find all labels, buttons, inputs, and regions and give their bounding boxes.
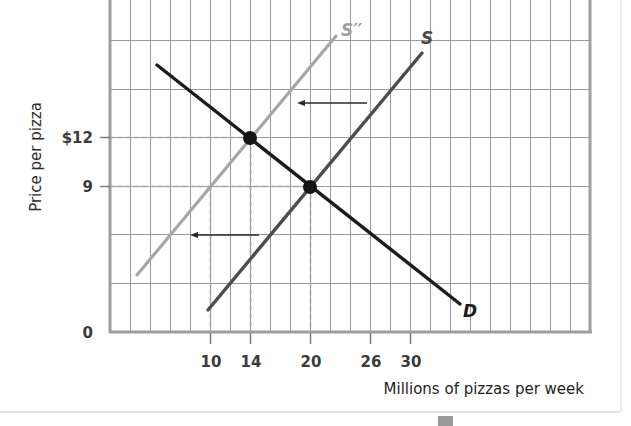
equilibrium-point-original <box>303 180 317 194</box>
curve-label-d: D <box>463 301 477 321</box>
y-tick-label-0: 0 <box>83 324 93 342</box>
shift-arrow-upper <box>297 100 367 106</box>
x-tick-label-30: 30 <box>401 353 422 371</box>
x-ticks <box>211 333 411 344</box>
x-tick-label-26: 26 <box>361 353 382 371</box>
y-axis-title: Price per pizza <box>27 102 45 212</box>
equilibrium-point-new <box>243 131 257 145</box>
curve-label-s-double-prime: S′′ <box>341 20 363 40</box>
shift-arrow-lower <box>190 232 259 238</box>
y-tick-label-9: 9 <box>83 178 93 196</box>
x-axis-title: Millions of pizzas per week <box>384 380 585 398</box>
x-tick-label-14: 14 <box>241 353 262 371</box>
supply-curve-s <box>208 53 422 310</box>
x-tick-label-10: 10 <box>201 353 222 371</box>
curve-label-s: S <box>421 28 433 48</box>
supply-demand-chart: S′′ S D $12 9 0 10 14 20 26 30 Price per… <box>0 0 631 426</box>
grid-vertical <box>131 0 571 332</box>
y-tick-label-12: $12 <box>62 129 93 147</box>
x-tick-label-20: 20 <box>301 353 322 371</box>
